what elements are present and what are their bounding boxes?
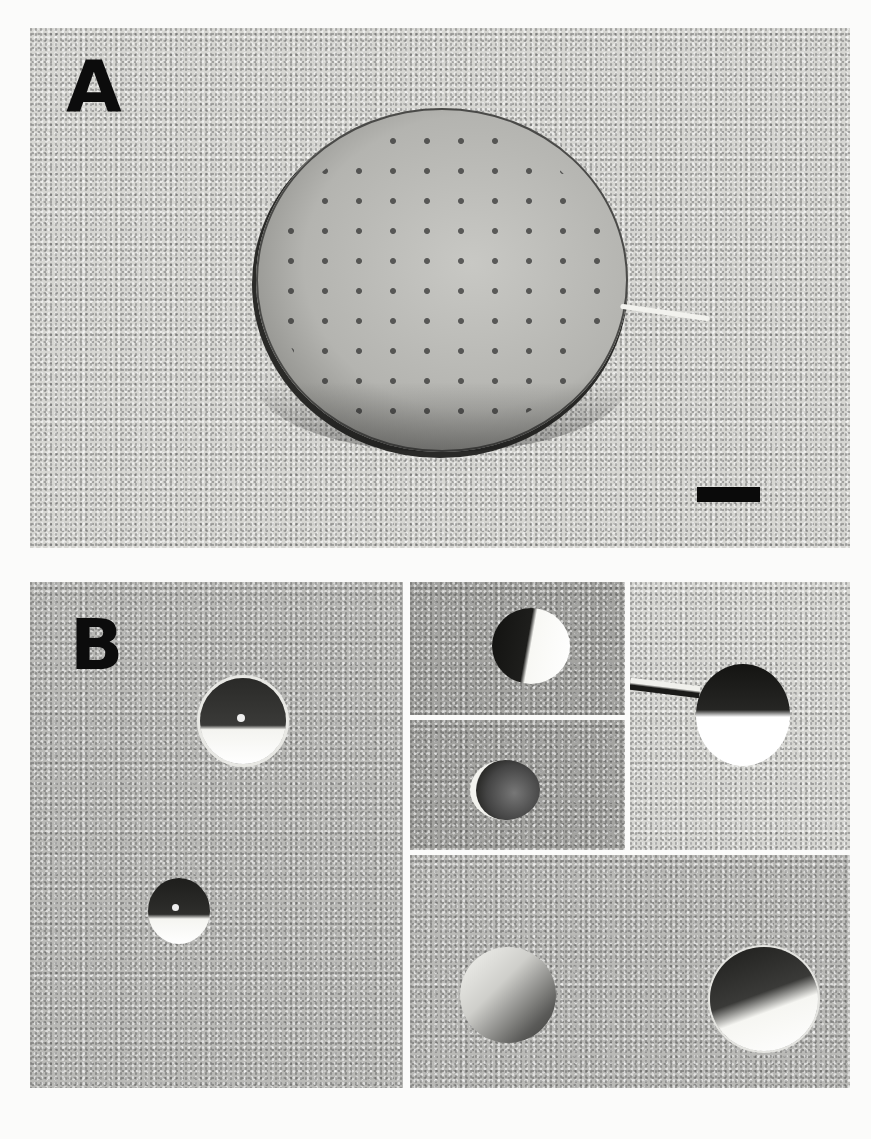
vesicle-dot <box>237 714 245 722</box>
panel-label-a: A <box>66 50 122 122</box>
large-vesicle <box>256 108 628 452</box>
panel-label-b: B <box>70 610 123 680</box>
panel-b-bottom-wide <box>410 855 850 1088</box>
figure-caption <box>30 1118 850 1139</box>
panel-a: A <box>30 28 850 548</box>
fracture-tail <box>620 304 710 321</box>
vesicle-b6 <box>460 947 556 1043</box>
vesicle-b7 <box>710 947 818 1051</box>
vesicle-rim-shadow <box>256 382 628 452</box>
vesicle-b1 <box>200 678 286 764</box>
vesicle-b3 <box>492 608 570 684</box>
fracture-tail <box>630 678 700 698</box>
vesicle-dot <box>172 904 179 911</box>
vesicle-b5 <box>696 664 790 766</box>
panel-b-top-middle <box>410 582 625 715</box>
panel-b-top-right <box>630 582 850 850</box>
vesicle-b2 <box>148 878 210 944</box>
panel-b-main: B <box>30 582 403 1088</box>
panel-b-middle-middle <box>410 720 625 850</box>
vesicle-b4 <box>470 760 540 820</box>
scale-bar <box>697 487 760 502</box>
